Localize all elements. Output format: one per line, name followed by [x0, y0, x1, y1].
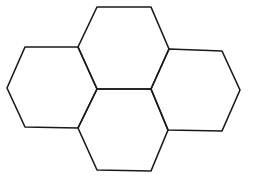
hexagon-right	[151, 49, 240, 131]
hexagon-diagram	[0, 0, 253, 181]
hexagon-bottom	[78, 89, 168, 171]
